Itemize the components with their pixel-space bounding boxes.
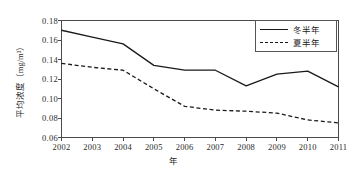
x-tick-label: 2011 [322, 142, 347, 152]
x-tick-label: 2003 [75, 142, 109, 152]
x-tick-label: 2007 [198, 142, 232, 152]
legend-label-winter: 冬半年 [289, 24, 320, 36]
x-tick-label: 2002 [45, 142, 79, 152]
x-axis-title: 年 [0, 156, 347, 166]
x-tick-label: 2005 [137, 142, 171, 152]
x-tick-label: 2009 [260, 142, 294, 152]
chart-figure: 平均浓度（mg/m³） 0.180.160.140.120.100.080.06… [0, 0, 347, 186]
legend-label-summer: 夏半年 [289, 37, 320, 49]
legend-item-summer: 夏半年 [259, 36, 333, 49]
x-tick-label: 2006 [168, 142, 202, 152]
legend-item-winter: 冬半年 [259, 23, 333, 36]
legend-line-dashed-icon [259, 38, 289, 48]
x-tick-label: 2004 [106, 142, 140, 152]
chart-legend: 冬半年 夏半年 [255, 20, 337, 52]
legend-line-solid-icon [259, 25, 289, 35]
x-tick-label: 2008 [229, 142, 263, 152]
x-tick-label: 2010 [291, 142, 325, 152]
